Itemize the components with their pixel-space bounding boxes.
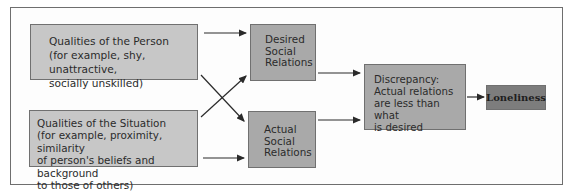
node-line: socially unskilled) bbox=[49, 76, 197, 90]
node-desired-social-relations: Desired Social Relations bbox=[250, 24, 316, 81]
node-line: to those of others) bbox=[37, 179, 197, 191]
node-line: Actual relations bbox=[374, 86, 465, 98]
node-line: of person's beliefs and background bbox=[37, 154, 197, 179]
node-actual-social-relations: Actual Social Relations bbox=[248, 111, 316, 168]
node-line: (for example, shy, unattractive, bbox=[49, 48, 197, 76]
node-line: is desired bbox=[374, 122, 465, 134]
node-title: Qualities of the Situation bbox=[37, 117, 197, 129]
node-line: Discrepancy: bbox=[374, 74, 465, 86]
node-line: Relations bbox=[264, 147, 315, 159]
node-line: Desired bbox=[265, 34, 315, 46]
node-title: Qualities of the Person bbox=[49, 34, 197, 48]
node-loneliness: Loneliness bbox=[486, 85, 546, 110]
node-line: are less than what bbox=[374, 98, 465, 122]
node-label: Loneliness bbox=[486, 92, 546, 103]
node-line: Actual bbox=[264, 124, 315, 136]
node-line: Relations bbox=[265, 57, 315, 69]
node-qualities-of-situation: Qualities of the Situation (for example,… bbox=[29, 110, 198, 167]
node-line: (for example, proximity, similarity bbox=[37, 129, 197, 154]
node-qualities-of-person: Qualities of the Person (for example, sh… bbox=[30, 24, 198, 80]
node-discrepancy: Discrepancy: Actual relations are less t… bbox=[364, 64, 466, 130]
